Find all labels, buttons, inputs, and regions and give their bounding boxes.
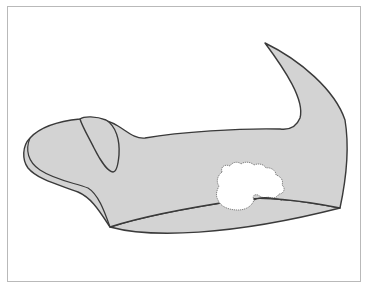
organ-body [24,43,348,227]
organ-diagram [0,0,367,288]
